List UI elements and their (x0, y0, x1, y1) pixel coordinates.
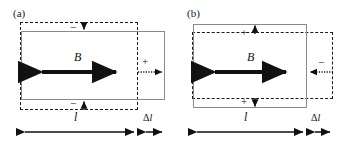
panel-b: (b) B + + − l Δl (176, 0, 351, 144)
panel-b-top-sign: + (241, 27, 247, 38)
panel-a-side-sign: + (142, 56, 148, 67)
panel-b-delta-l-symbol: l (317, 112, 320, 123)
panel-b-bottom-sign: + (241, 96, 247, 107)
panel-b-delta-length-label: Δl (311, 112, 320, 123)
magnetostriction-figure: (a) B − − + l Δl (0, 0, 351, 144)
panel-a-top-sign: − (70, 22, 76, 33)
panel-a-delta-l-symbol: l (149, 112, 152, 123)
panel-b-side-sign: − (318, 57, 324, 68)
panel-b-label: (b) (187, 7, 200, 19)
panel-a-bottom-sign: − (70, 98, 76, 109)
panel-a-delta-length-label: Δl (143, 112, 152, 123)
panel-b-solid-rectangle (193, 24, 307, 108)
panel-a-length-label: l (74, 110, 77, 125)
panel-b-length-label: l (244, 110, 247, 125)
panel-b-field-label: B (247, 50, 254, 65)
panel-a-field-label: B (74, 50, 81, 65)
panel-a: (a) B − − + l Δl (0, 0, 176, 144)
panel-a-label: (a) (13, 7, 25, 19)
